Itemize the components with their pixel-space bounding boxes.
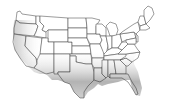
- us-map: [0, 0, 171, 109]
- shading-layer: [0, 0, 171, 109]
- west-shade: [0, 20, 171, 80]
- us-map-container: [0, 0, 171, 109]
